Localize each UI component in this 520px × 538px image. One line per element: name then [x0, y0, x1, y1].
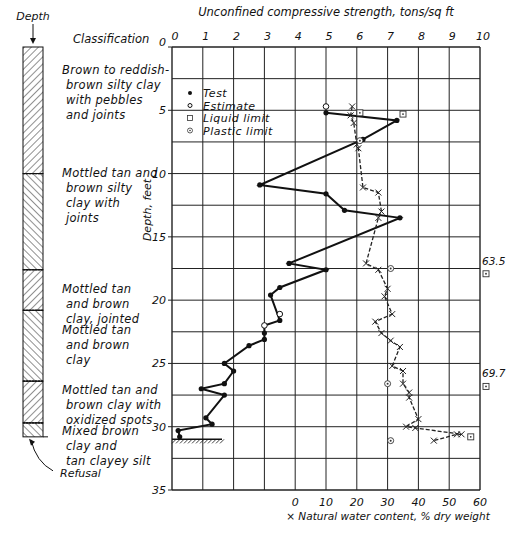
x-tick-label-bottom: 50 — [442, 496, 456, 509]
water-content-x-marker — [378, 330, 384, 336]
test-marker — [323, 110, 328, 115]
test-marker — [277, 318, 282, 323]
plastic-limit-marker-dot — [390, 268, 392, 270]
y-tick-label: 25 — [152, 357, 166, 370]
soil-layer — [23, 423, 43, 437]
estimate-marker — [323, 104, 329, 110]
plastic-limit-marker-dot — [390, 440, 392, 442]
estimate-marker — [262, 323, 268, 329]
soil-layer — [23, 270, 43, 311]
depth-label: Depth — [16, 10, 50, 23]
test-marker — [231, 368, 236, 373]
estimate-marker — [277, 311, 283, 317]
x-tick-label-top: 8 — [418, 30, 425, 43]
water-content-x-marker — [382, 293, 388, 299]
test-marker — [257, 182, 262, 187]
x-tick-label-top: 7 — [387, 30, 394, 43]
water-content-x-marker — [400, 368, 406, 374]
test-marker — [209, 422, 214, 427]
test-marker — [199, 386, 204, 391]
legend-estimate-icon — [188, 104, 192, 108]
soil-layer — [23, 381, 43, 423]
x-axis-title-bottom: × Natural water content, % dry weight — [286, 510, 490, 522]
test-marker — [222, 381, 227, 386]
test-marker — [262, 330, 267, 335]
water-content-x-marker — [397, 344, 403, 350]
test-marker — [176, 428, 181, 433]
classification-header: Classification — [73, 32, 149, 46]
x-tick-label-top: 9 — [449, 30, 456, 43]
liquid-limit-offscale-marker-dot — [485, 386, 487, 388]
liquid-limit-marker-dot — [359, 112, 361, 114]
chart-legend: TestEstimateLiquid limitPlastic limit — [188, 87, 273, 138]
x-tick-label-bottom: 30 — [381, 496, 395, 509]
legend-label: Plastic limit — [203, 125, 273, 138]
test-marker — [342, 208, 347, 213]
soil-layer — [23, 47, 43, 174]
soil-layer — [23, 310, 43, 381]
test-marker — [222, 392, 227, 397]
test-line — [178, 113, 400, 437]
x-tick-label-top: 6 — [356, 30, 363, 43]
test-marker — [323, 191, 328, 196]
legend-label: Liquid limit — [203, 112, 270, 125]
classification-description: Mixed brown clay and tan clayey silt — [62, 424, 151, 469]
legend-liquid-limit-icon — [188, 116, 193, 121]
x-tick-label-bottom: 10 — [319, 496, 333, 509]
liquid-limit-offscale-value: 63.5 — [482, 255, 506, 267]
x-tick-label-bottom: 0 — [292, 496, 299, 509]
liquid-limit-offscale-marker-dot — [485, 273, 487, 275]
x-tick-label-top: 5 — [326, 30, 333, 43]
classification-description: Mottled tan and brown silty clay with jo… — [62, 166, 158, 226]
x-tick-label-top: 3 — [264, 30, 271, 43]
liquid-limit-offscale-value: 69.7 — [482, 367, 506, 379]
y-tick-label: 15 — [152, 231, 166, 244]
legend-plastic-limit-icon-dot — [189, 130, 191, 132]
x-tick-label-top: 4 — [295, 30, 302, 43]
refusal-arrow-head — [29, 439, 35, 446]
water-content-x-marker — [375, 190, 381, 196]
x-axis-title-top: Unconfined compressive strength, tons/sq… — [198, 5, 454, 19]
classification-description: Mottled tan and brown clay with oxidized… — [62, 383, 161, 428]
x-tick-label-bottom: 20 — [350, 496, 364, 509]
x-tick-label-bottom: 40 — [411, 496, 425, 509]
axis-labels: Unconfined compressive strength, tons/sq… — [141, 5, 491, 522]
y-tick-label: 35 — [152, 484, 166, 497]
test-marker — [203, 415, 208, 420]
legend-test-icon — [188, 91, 192, 95]
test-marker — [246, 343, 251, 348]
test-marker — [394, 118, 399, 123]
test-marker — [222, 361, 227, 366]
legend-label: Estimate — [203, 100, 256, 113]
test-marker — [286, 261, 291, 266]
classification-description: Mottled tan and brown clay — [62, 323, 131, 368]
y-tick-label: 0 — [159, 36, 166, 49]
soil-layer — [23, 174, 43, 270]
classification-description: Mottled tan and brown clay, jointed — [62, 282, 139, 327]
water-content-x-marker — [388, 338, 394, 344]
data-series: 63.569.7 — [172, 103, 506, 443]
liquid-limit-marker-dot — [470, 436, 472, 438]
water-content-line — [351, 106, 462, 440]
liquid-limit-marker-dot — [402, 113, 404, 115]
water-content-x-marker — [389, 311, 395, 317]
x-tick-label-bottom: 60 — [473, 496, 487, 509]
x-tick-label-top: 1 — [202, 30, 209, 43]
test-marker — [268, 292, 273, 297]
legend-label: Test — [203, 87, 227, 100]
test-marker — [277, 285, 282, 290]
depth-arrow-head — [30, 38, 36, 44]
x-tick-label-top: 0 — [172, 30, 179, 43]
test-marker — [323, 267, 328, 272]
test-marker — [262, 337, 267, 342]
water-content-x-marker — [372, 319, 378, 325]
classification-description: Brown to reddish- brown silty clay with … — [62, 63, 169, 123]
water-content-x-marker — [375, 267, 381, 273]
test-marker — [397, 215, 402, 220]
plastic-limit-marker-dot — [359, 140, 361, 142]
refusal-pointer — [31, 440, 53, 471]
plastic-limit-marker-dot — [387, 383, 389, 385]
x-tick-label-top: 10 — [476, 30, 490, 43]
x-tick-label-top: 2 — [233, 30, 240, 43]
y-tick-label: 20 — [152, 294, 166, 307]
